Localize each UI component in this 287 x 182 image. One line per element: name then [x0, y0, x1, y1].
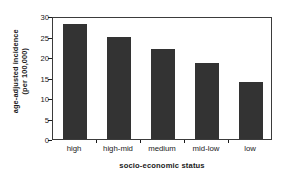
bar-series	[53, 18, 271, 139]
x-axis-tick-mark	[140, 140, 141, 143]
bar	[195, 63, 219, 139]
y-axis-tick-label: 10	[33, 95, 49, 104]
y-axis-title-text: age-adjusted incidence (per 100,000)	[11, 29, 30, 113]
x-axis-tick-mark	[228, 140, 229, 143]
plot-area	[52, 17, 272, 140]
x-axis-tick-mark	[184, 140, 185, 143]
y-axis-tick-label: 5	[33, 115, 49, 124]
x-axis-tick-mark	[96, 140, 97, 143]
x-axis-tick-label: high-mid	[103, 144, 133, 153]
x-axis-tick-labels: highhigh-midmediummid-lowlow	[52, 144, 272, 158]
y-axis-tick-labels: 051015202530	[32, 0, 49, 182]
y-axis-tick-label: 25	[33, 33, 49, 42]
y-axis-title-line2: (per 100,000)	[20, 29, 29, 113]
x-axis-tick-label: low	[244, 144, 256, 153]
y-axis-tick-label: 20	[33, 54, 49, 63]
y-axis-tick-label: 15	[33, 74, 49, 83]
bar	[63, 24, 87, 139]
bar	[239, 82, 263, 139]
x-axis-tick-label: high	[67, 144, 82, 153]
x-axis-tick-label: medium	[148, 144, 176, 153]
bar-chart-figure: age-adjusted incidence (per 100,000) 051…	[0, 0, 287, 182]
y-axis-tick-label: 30	[33, 13, 49, 22]
x-axis-tick-label: mid-low	[193, 144, 220, 153]
bar	[151, 49, 175, 139]
y-axis-tick-label: 0	[33, 136, 49, 145]
y-axis-title-line1: age-adjusted incidence	[11, 29, 20, 113]
bar	[107, 37, 131, 140]
x-axis-title: socio-economic status	[52, 161, 272, 170]
